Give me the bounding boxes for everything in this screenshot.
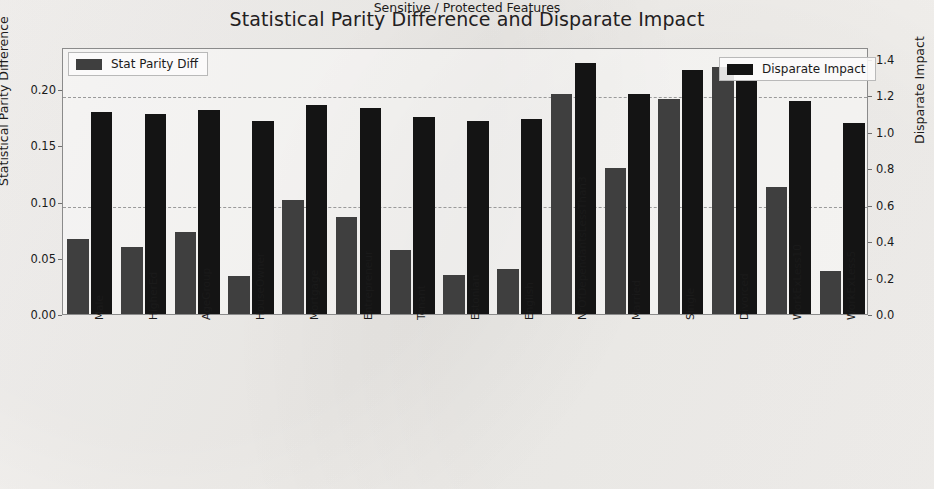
bar-stat-parity-diff xyxy=(175,232,196,314)
y-tick-mark-right xyxy=(868,96,872,97)
y-tick-mark-right xyxy=(868,279,872,280)
x-tick-label: HouseOwner xyxy=(254,253,266,320)
bar-stat-parity-diff xyxy=(121,247,142,314)
y-tick-mark-left xyxy=(58,90,62,91)
x-tick-label: English xyxy=(523,282,535,320)
bar-stat-parity-diff xyxy=(766,187,787,314)
bar-stat-parity-diff xyxy=(282,200,303,314)
chart-figure: Statistical Parity Difference and Dispar… xyxy=(0,0,934,489)
y-tick-label-right: 0.8 xyxy=(876,162,894,176)
chart-title: Statistical Parity Difference and Dispar… xyxy=(0,8,934,30)
bar-stat-parity-diff xyxy=(336,217,357,314)
y-tick-mark-right xyxy=(868,206,872,207)
bar-stat-parity-diff xyxy=(551,94,572,314)
y-tick-label-left: 0.00 xyxy=(20,308,56,322)
bar-disparate-impact xyxy=(91,112,112,314)
legend-stat-parity-diff: Stat Parity Diff xyxy=(68,52,208,76)
x-tick-label: Mortgage xyxy=(308,270,320,320)
y-tick-label-right: 1.0 xyxy=(876,126,894,140)
legend-label-stat-parity-diff: Stat Parity Diff xyxy=(111,57,198,71)
y-tick-mark-right xyxy=(868,133,872,134)
bar-stat-parity-diff xyxy=(820,271,841,314)
y-tick-label-right: 1.4 xyxy=(876,53,894,67)
bar-stat-parity-diff xyxy=(390,250,411,314)
y-tick-label-right: 0.0 xyxy=(876,308,894,322)
bar-stat-parity-diff xyxy=(497,269,518,314)
bar-stat-parity-diff xyxy=(658,99,679,314)
y-tick-label-right: 1.2 xyxy=(876,89,894,103)
bar-stat-parity-diff xyxy=(67,239,88,314)
y-axis-label-right: Disparate Impact xyxy=(912,36,927,144)
y-tick-mark-left xyxy=(58,315,62,316)
y-tick-mark-right xyxy=(868,242,872,243)
y-axis-label-left: Statistical Parity Difference xyxy=(0,16,11,186)
x-tick-label: Single xyxy=(684,288,696,320)
legend-label-disparate-impact: Disparate Impact xyxy=(762,62,866,76)
x-tick-label: Married xyxy=(630,280,642,320)
y-tick-mark-left xyxy=(58,259,62,260)
x-tick-label: WorkExLess5 xyxy=(845,251,857,320)
legend-swatch-stat-parity-diff xyxy=(76,59,102,70)
y-tick-label-right: 0.2 xyxy=(876,272,894,286)
x-tick-label: HigherEd xyxy=(147,272,159,320)
y-tick-label-left: 0.05 xyxy=(20,252,56,266)
y-tick-label-left: 0.20 xyxy=(20,83,56,97)
y-tick-mark-left xyxy=(58,203,62,204)
x-tick-label: AgeGroup xyxy=(200,268,212,320)
y-tick-label-left: 0.15 xyxy=(20,139,56,153)
y-tick-label-right: 0.6 xyxy=(876,199,894,213)
y-tick-mark-right xyxy=(868,315,872,316)
bar-stat-parity-diff xyxy=(712,67,733,314)
x-tick-label: Divorced xyxy=(738,273,750,320)
x-tick-label: Estonian xyxy=(469,275,481,320)
y-tick-mark-right xyxy=(868,169,872,170)
bar-disparate-impact xyxy=(682,70,703,314)
y-tick-label-left: 0.10 xyxy=(20,196,56,210)
bar-stat-parity-diff xyxy=(443,275,464,314)
y-tick-mark-left xyxy=(58,146,62,147)
x-tick-label: Male xyxy=(93,295,105,320)
x-tick-label: Entrepreneur xyxy=(362,251,374,320)
y-tick-label-right: 0.4 xyxy=(876,235,894,249)
legend-disparate-impact: Disparate Impact xyxy=(719,57,876,81)
bar-stat-parity-diff xyxy=(228,276,249,314)
bar-stat-parity-diff xyxy=(605,168,626,314)
legend-swatch-disparate-impact xyxy=(727,64,753,75)
x-tick-label: WorkExLess10 xyxy=(791,244,803,320)
x-tick-label: NrOfDependantsLessThan3 xyxy=(576,176,588,320)
x-tick-label: Tenant xyxy=(415,285,427,320)
